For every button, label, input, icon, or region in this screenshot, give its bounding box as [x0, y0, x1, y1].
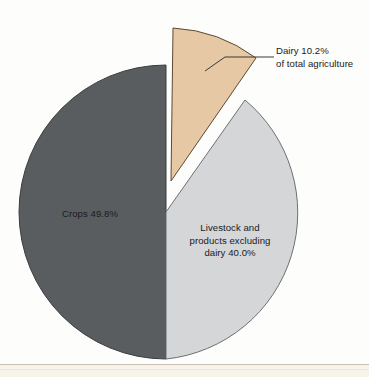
pie-label-dairy-callout: Dairy 10.2% of total agriculture	[276, 45, 353, 70]
footer-rule	[0, 364, 369, 365]
footer-band	[0, 365, 369, 377]
pie-label-livestock-line3: dairy 40.0%	[177, 247, 283, 260]
pie-label-dairy-line2: of total agriculture	[276, 58, 353, 71]
pie-label-livestock-line1: Livestock and	[177, 222, 283, 235]
pie-label-dairy-line1: Dairy 10.2%	[276, 45, 353, 58]
pie-label-livestock-line2: products excluding	[177, 235, 283, 248]
pie-chart-figure: Crops 49.8% Livestock and products exclu…	[0, 0, 369, 377]
pie-label-crops: Crops 49.8%	[62, 208, 118, 221]
footer-band-edge	[0, 369, 369, 370]
pie-label-livestock: Livestock and products excluding dairy 4…	[177, 222, 283, 260]
